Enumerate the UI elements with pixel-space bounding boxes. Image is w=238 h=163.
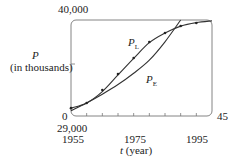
data-point — [179, 25, 182, 28]
y-axis-top-label: 40,000 — [58, 4, 88, 15]
pe-sub: E — [153, 80, 157, 88]
data-point — [70, 107, 73, 110]
legend-label-pl: PL — [128, 37, 139, 53]
data-point — [164, 32, 167, 35]
x-axis-unit: (year) — [126, 144, 152, 156]
x-tick-label-1955: 1955 — [62, 134, 84, 145]
data-point — [117, 73, 120, 76]
y-axis-unit-label: (in thousands) — [10, 62, 73, 73]
y-axis-variable-label: P — [32, 50, 39, 61]
pl-main: P — [128, 36, 135, 48]
data-point — [195, 22, 198, 25]
x-tick-label-1995: 1995 — [186, 134, 208, 145]
legend-label-pe: PE — [146, 74, 157, 90]
logistic-curve-pl — [71, 21, 212, 108]
data-point — [85, 102, 88, 105]
data-points — [70, 22, 198, 110]
x-axis-label: t (year) — [120, 145, 152, 156]
x-axis-variable: t — [120, 144, 123, 156]
x-axis-right-label: 45 — [217, 111, 228, 122]
pe-main: P — [146, 73, 153, 85]
pl-sub: L — [135, 43, 139, 51]
y-axis-zero-label: 0 — [62, 111, 68, 122]
plot-frame — [71, 20, 212, 116]
data-point — [148, 41, 151, 44]
data-point — [101, 89, 104, 92]
data-point — [132, 57, 135, 60]
